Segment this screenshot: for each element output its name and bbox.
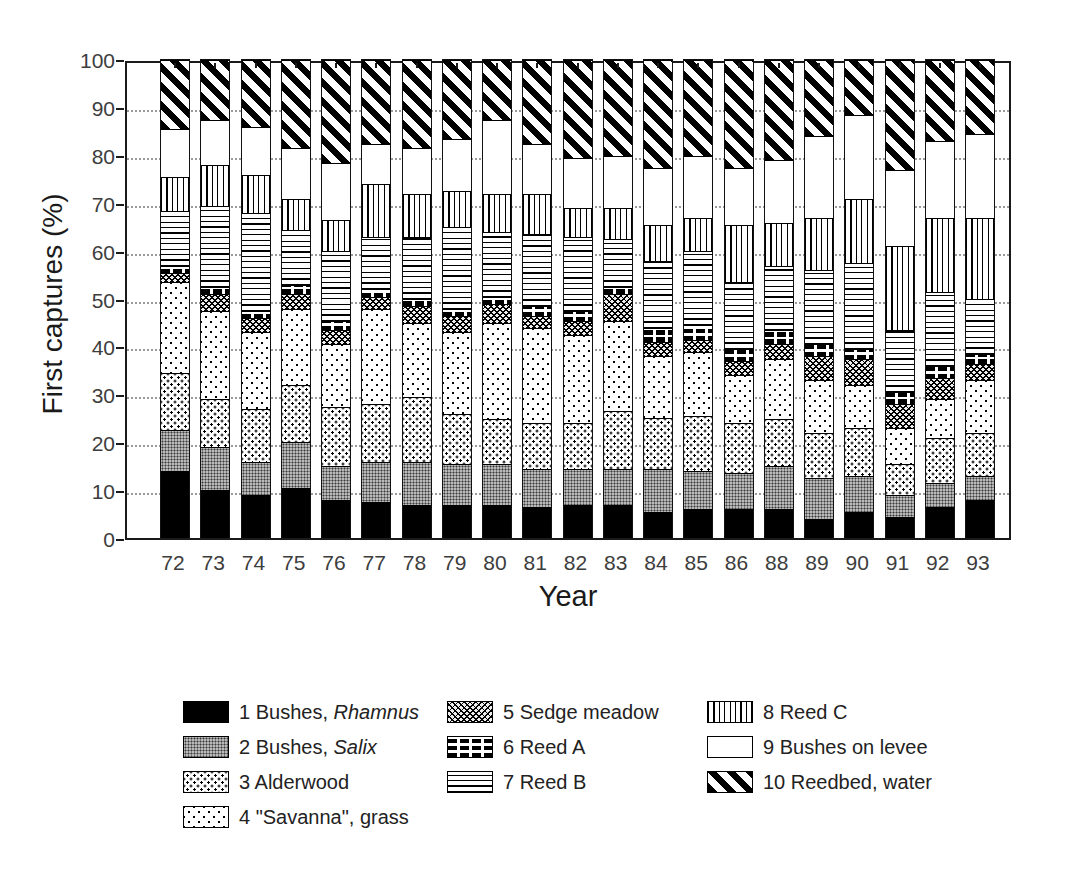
y-axis-tick	[116, 491, 124, 493]
bar-83-segment-dots-dense	[604, 411, 632, 468]
x-tick-label-80: 80	[483, 551, 506, 575]
bar-81-segment-black-bricks	[523, 306, 551, 316]
bar-74-segment-vlines	[242, 175, 270, 213]
top-tick	[496, 63, 498, 68]
top-tick	[657, 63, 659, 68]
bar-85	[683, 59, 713, 538]
bar-89-segment-hlines	[805, 270, 833, 344]
x-tick-label-83: 83	[604, 551, 627, 575]
bar-86-segment-solid-black	[725, 509, 753, 538]
bar-74-segment-solid-black	[242, 495, 270, 538]
x-tick-label-85: 85	[685, 551, 708, 575]
x-tick-label-84: 84	[644, 551, 667, 575]
bar-88-segment-dots-dense	[765, 419, 793, 467]
y-axis-tick	[116, 204, 124, 206]
bar-80-segment-solid-black	[483, 505, 511, 538]
bar-77-segment-crosshatch	[362, 297, 390, 309]
legend-swatch-dots-dense	[183, 771, 229, 793]
bar-76-segment-diagonal-stripes	[322, 60, 350, 163]
bar-82-segment-black-bricks	[564, 311, 592, 321]
bar-91-segment-diagonal-stripes	[886, 60, 914, 170]
bar-88-segment-diagonal-stripes	[765, 60, 793, 160]
bar-88	[764, 59, 794, 538]
bar-76	[321, 59, 351, 538]
bar-93-segment-gray-stipple	[966, 476, 994, 500]
bar-79-segment-black-bricks	[443, 309, 471, 316]
legend-label: 9 Bushes on levee	[763, 736, 928, 759]
legend-swatch-black-bricks	[447, 736, 493, 758]
bar-81-segment-diagonal-stripes	[523, 60, 551, 144]
bar-82-segment-hlines	[564, 237, 592, 311]
bar-93-segment-dots-sparse	[966, 380, 994, 433]
bar-72-segment-gray-stipple	[161, 430, 189, 471]
top-tick	[214, 63, 216, 68]
top-tick	[456, 63, 458, 68]
bar-82-segment-diagonal-stripes	[564, 60, 592, 158]
bar-84-segment-vlines	[644, 225, 672, 261]
bar-83-segment-dots-sparse	[604, 321, 632, 412]
bar-92-segment-white	[926, 141, 954, 217]
bar-88-segment-white	[765, 160, 793, 222]
bar-92-segment-dots-sparse	[926, 399, 954, 437]
bar-86-segment-diagonal-stripes	[725, 60, 753, 168]
bar-83-segment-vlines	[604, 208, 632, 239]
top-tick	[295, 63, 297, 68]
legend-label: 4 "Savanna", grass	[239, 806, 409, 829]
bar-72-segment-crosshatch	[161, 273, 189, 283]
bar-74-segment-black-bricks	[242, 311, 270, 318]
y-tick-label-50: 50	[60, 289, 115, 313]
bar-76-segment-dots-sparse	[322, 344, 350, 406]
bar-73-segment-black-bricks	[201, 287, 229, 294]
x-tick-label-74: 74	[242, 551, 265, 575]
x-tick-label-92: 92	[926, 551, 949, 575]
bar-93-segment-solid-black	[966, 500, 994, 538]
bar-86-segment-gray-stipple	[725, 473, 753, 509]
bar-81-segment-dots-dense	[523, 423, 551, 468]
bar-75-segment-gray-stipple	[282, 442, 310, 487]
y-tick-label-70: 70	[60, 193, 115, 217]
x-tick-label-81: 81	[524, 551, 547, 575]
bar-72-segment-hlines	[161, 211, 189, 266]
bar-92	[925, 59, 955, 538]
bar-86-segment-white	[725, 168, 753, 225]
bar-76-segment-gray-stipple	[322, 466, 350, 499]
bar-72-segment-vlines	[161, 177, 189, 210]
x-axis-title: Year	[539, 580, 598, 613]
bar-86-segment-dots-dense	[725, 423, 753, 473]
bar-78-segment-black-bricks	[403, 299, 431, 306]
bar-79-segment-dots-sparse	[443, 332, 471, 413]
bar-88-segment-gray-stipple	[765, 466, 793, 509]
top-tick	[416, 63, 418, 68]
bar-91-segment-black-bricks	[886, 392, 914, 404]
bar-75-segment-diagonal-stripes	[282, 60, 310, 148]
bar-89-segment-dots-sparse	[805, 380, 833, 433]
y-axis-tick	[116, 60, 124, 62]
x-tick-label-76: 76	[322, 551, 345, 575]
bar-80-segment-black-bricks	[483, 297, 511, 304]
y-axis-tick	[116, 395, 124, 397]
bar-78	[402, 59, 432, 538]
bar-92-segment-black-bricks	[926, 366, 954, 378]
bar-75-segment-dots-dense	[282, 385, 310, 442]
legend-swatch-gray-stipple	[183, 736, 229, 758]
bar-93-segment-diagonal-stripes	[966, 60, 994, 134]
legend-swatch-white	[707, 736, 753, 758]
bar-89-segment-gray-stipple	[805, 478, 833, 519]
plot-area	[125, 61, 1011, 540]
bar-88-segment-hlines	[765, 266, 793, 331]
y-axis-tick	[116, 539, 124, 541]
top-tick	[617, 63, 619, 68]
bar-90-segment-hlines	[845, 263, 873, 349]
y-tick-label-0: 0	[60, 528, 115, 552]
y-tick-label-60: 60	[60, 241, 115, 265]
bar-78-segment-dots-sparse	[403, 323, 431, 397]
bar-81-segment-crosshatch	[523, 316, 551, 328]
bar-76-segment-dots-dense	[322, 407, 350, 467]
bar-89-segment-solid-black	[805, 519, 833, 538]
bar-76-segment-black-bricks	[322, 321, 350, 331]
top-tick	[979, 63, 981, 68]
bar-92-segment-diagonal-stripes	[926, 60, 954, 141]
bar-77	[361, 59, 391, 538]
bar-90	[844, 59, 874, 538]
bar-74	[241, 59, 271, 538]
